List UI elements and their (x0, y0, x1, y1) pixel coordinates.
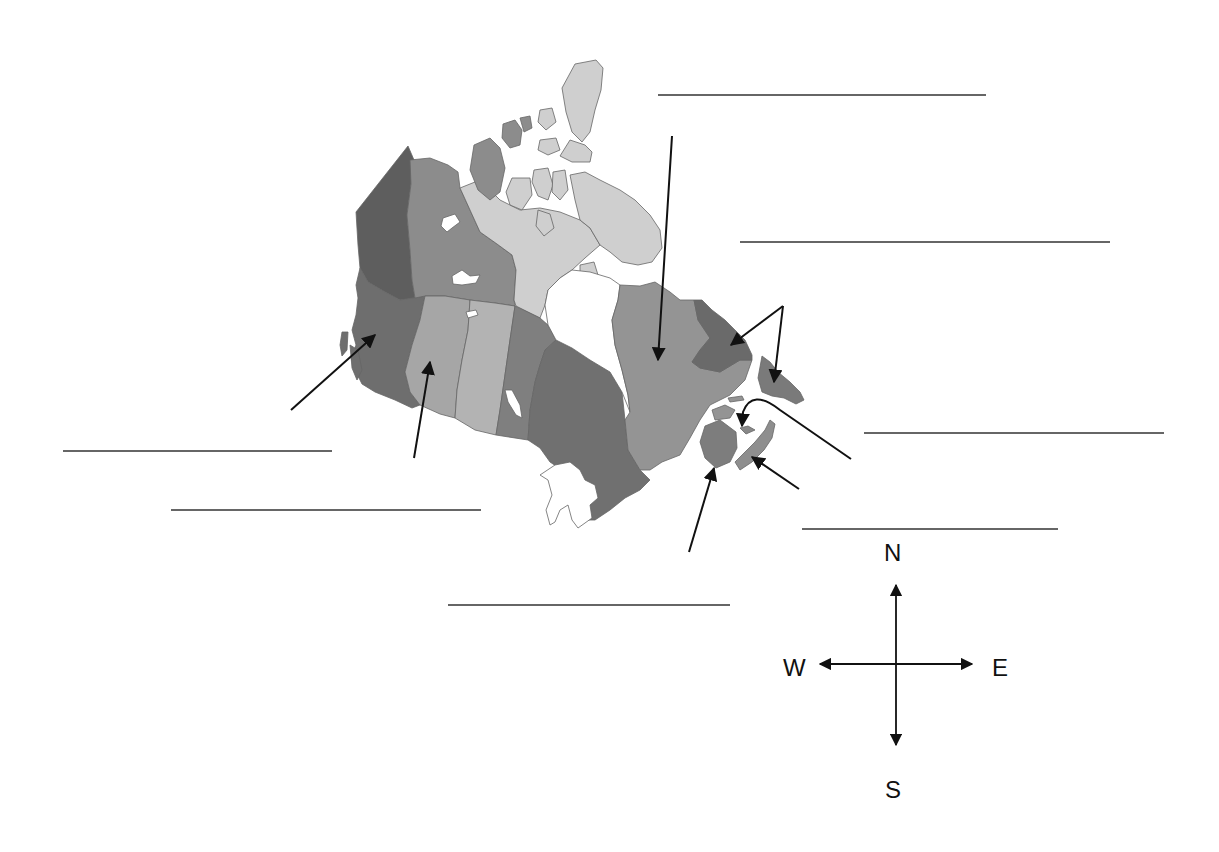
canada-map (340, 60, 804, 528)
region-vancouver-island (340, 332, 348, 356)
arrow-new-brunswick-icon (689, 468, 714, 552)
compass-south-label: S (885, 778, 901, 802)
anticosti-island (728, 396, 744, 402)
compass-east-label: E (992, 656, 1008, 680)
arrow-newfoundland-icon (774, 306, 783, 382)
region-gaspe (712, 405, 735, 420)
arrow-nova-scotia-icon (752, 457, 799, 489)
arrow-labrador-icon (731, 306, 783, 345)
compass-rose-icon (820, 585, 972, 745)
region-pei (740, 426, 755, 434)
region-new-brunswick (700, 420, 737, 468)
compass-north-label: N (884, 541, 901, 565)
compass-west-label: W (783, 656, 806, 680)
region-newfoundland (758, 356, 804, 404)
map-canvas (0, 0, 1219, 852)
canada-map-worksheet: N S E W (0, 0, 1219, 852)
